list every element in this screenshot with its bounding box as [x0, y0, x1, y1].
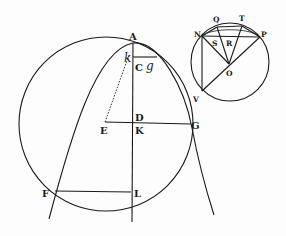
label-a: A	[128, 31, 137, 42]
label-c: C	[135, 62, 143, 73]
label-g: g	[146, 59, 154, 73]
label-r: R	[226, 39, 233, 48]
chord-q-t	[217, 26, 242, 27]
diagram-canvas: A k C g D E K G F L Q T N P S R O V	[0, 0, 286, 236]
label-l: L	[134, 188, 141, 199]
label-k: k	[124, 51, 131, 65]
label-g-upper: G	[191, 120, 200, 131]
line-t-p	[242, 26, 260, 37]
segment-f-l	[55, 191, 131, 192]
vertical-axis	[132, 43, 133, 222]
dotted-segment-e-k	[105, 55, 129, 122]
label-t: T	[239, 14, 245, 23]
parabola-curve	[49, 43, 214, 219]
label-v: V	[192, 95, 199, 104]
label-s: S	[212, 39, 217, 48]
chord-n-p	[202, 36, 260, 37]
label-d: D	[135, 112, 144, 123]
label-k-upper: K	[135, 125, 144, 136]
label-n: N	[194, 30, 201, 39]
segment-e-g	[105, 122, 191, 124]
label-q: Q	[213, 15, 220, 24]
label-f: F	[42, 188, 49, 199]
label-o: O	[226, 69, 233, 78]
label-e: E	[100, 125, 108, 136]
label-p: P	[261, 30, 267, 39]
geometry-figure: A k C g D E K G F L Q T N P S R O V	[0, 0, 286, 236]
